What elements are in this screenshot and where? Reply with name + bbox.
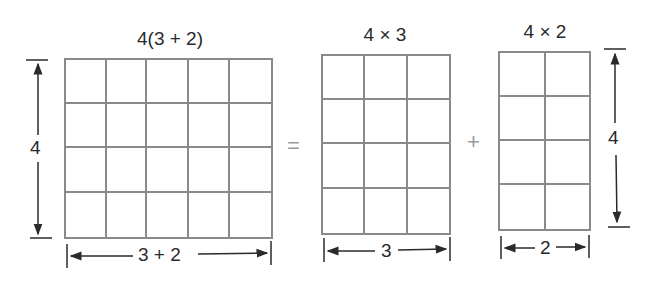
- equals-sign: =: [287, 133, 300, 159]
- left-grid: [65, 59, 272, 238]
- right-grid: [499, 52, 590, 230]
- right-height-label: 4: [606, 127, 621, 149]
- right-expression-label: 4 × 2: [500, 21, 590, 43]
- left-width-label: 3 + 2: [136, 244, 183, 266]
- left-expression-label: 4(3 + 2): [125, 28, 215, 50]
- middle-expression-label: 4 × 3: [340, 24, 430, 46]
- middle-width-label: 3: [379, 240, 394, 262]
- left-height-label: 4: [28, 137, 43, 159]
- middle-grid: [322, 55, 450, 234]
- right-width-label: 2: [538, 237, 553, 259]
- plus-sign: +: [467, 129, 480, 155]
